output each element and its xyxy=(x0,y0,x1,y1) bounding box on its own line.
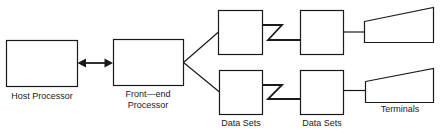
front-end-label-line2: Processor xyxy=(128,100,169,111)
comm-link-bottom-icon xyxy=(263,85,301,99)
network-diagram xyxy=(0,0,441,130)
data-set-local-bottom-box xyxy=(220,71,263,115)
data-set-remote-top-box xyxy=(301,11,344,55)
terminal-top-shape xyxy=(365,8,434,43)
data-sets-remote-label: Data Sets xyxy=(302,118,342,129)
data-set-remote-bottom-box xyxy=(301,71,344,115)
front-end-processor-box xyxy=(114,40,184,86)
fan-line-top xyxy=(184,32,219,63)
fan-line-bottom xyxy=(184,63,220,93)
data-sets-local-label: Data Sets xyxy=(221,118,261,129)
front-end-label-line1: Front—end xyxy=(125,89,170,100)
host-processor-box xyxy=(7,41,78,87)
data-set-local-top-box xyxy=(219,11,263,55)
comm-link-top-icon xyxy=(263,25,301,40)
terminals-label: Terminals xyxy=(381,104,420,115)
terminal-bottom-shape xyxy=(366,69,434,103)
host-processor-label: Host Processor xyxy=(11,91,73,102)
